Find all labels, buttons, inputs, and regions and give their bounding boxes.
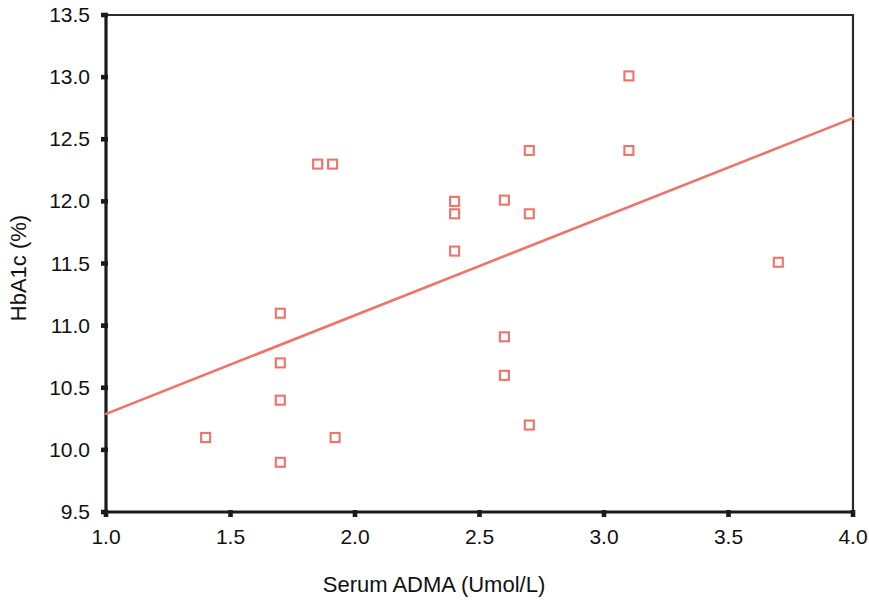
data-point-marker bbox=[500, 196, 509, 205]
data-point-marker bbox=[774, 258, 783, 267]
plot-canvas: 1.01.52.02.53.03.54.0 9.510.010.511.011.… bbox=[0, 0, 869, 607]
data-point-marker bbox=[276, 458, 285, 467]
data-point-marker bbox=[500, 371, 509, 380]
scatter-plot-figure: 1.01.52.02.53.03.54.0 9.510.010.511.011.… bbox=[0, 0, 869, 607]
data-point-marker bbox=[313, 160, 322, 169]
data-point-marker bbox=[500, 332, 509, 341]
regression-trend-line bbox=[106, 118, 853, 414]
x-axis-tick-label: 2.5 bbox=[465, 525, 494, 548]
data-point-marker bbox=[201, 433, 210, 442]
data-point-marker bbox=[276, 396, 285, 405]
data-point-marker bbox=[525, 146, 534, 155]
y-axis-tick-label: 12.5 bbox=[49, 127, 90, 150]
data-point-marker bbox=[624, 146, 633, 155]
x-axis-title: Serum ADMA (Umol/L) bbox=[323, 572, 546, 597]
trend-line-group bbox=[106, 118, 853, 414]
y-axis-tick-label: 10.5 bbox=[49, 376, 90, 399]
plot-axes-left-bottom bbox=[106, 15, 853, 512]
y-axis-tick-label: 11.0 bbox=[51, 314, 90, 337]
plot-frame-top-right bbox=[106, 15, 853, 512]
data-point-marker bbox=[328, 160, 337, 169]
data-point-marker bbox=[450, 197, 459, 206]
y-axis-tick-label: 10.0 bbox=[49, 438, 90, 461]
data-point-marker bbox=[276, 358, 285, 367]
x-axis-tick-label: 4.0 bbox=[838, 525, 867, 548]
y-axis-tick-label: 13.5 bbox=[49, 3, 90, 26]
data-point-marker bbox=[525, 421, 534, 430]
data-point-marker bbox=[525, 209, 534, 218]
x-axis-tick-label: 2.0 bbox=[340, 525, 369, 548]
x-axis-tick-labels: 1.01.52.02.53.03.54.0 bbox=[91, 525, 867, 548]
data-points-group bbox=[201, 71, 783, 466]
y-axis-tick-labels: 9.510.010.511.011.512.012.513.013.5 bbox=[49, 3, 90, 523]
x-axis-tick-label: 3.5 bbox=[714, 525, 743, 548]
x-axis-tick-label: 1.0 bbox=[91, 525, 120, 548]
y-axis-tick-label: 12.0 bbox=[49, 189, 90, 212]
x-axis-tick-label: 1.5 bbox=[216, 525, 245, 548]
data-point-marker bbox=[450, 209, 459, 218]
x-axis-tick-label: 3.0 bbox=[589, 525, 618, 548]
data-point-marker bbox=[331, 433, 340, 442]
plot-frame bbox=[106, 15, 853, 512]
data-point-marker bbox=[624, 71, 633, 80]
y-axis-title: HbA1c (%) bbox=[6, 215, 31, 321]
data-point-marker bbox=[276, 309, 285, 318]
data-point-marker bbox=[450, 247, 459, 256]
y-axis-tick-label: 13.0 bbox=[49, 65, 90, 88]
y-axis-tick-label: 11.5 bbox=[51, 252, 90, 275]
y-axis-tick-label: 9.5 bbox=[61, 500, 90, 523]
